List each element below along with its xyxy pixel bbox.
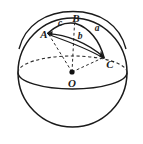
center-point-marker (69, 69, 74, 74)
label-side-b: b (78, 32, 83, 42)
label-vertex-a: A (40, 29, 47, 40)
radius-ob-dashed (72, 24, 75, 72)
label-vertex-b: B (72, 13, 79, 24)
radius-oa-dashed (49, 34, 73, 72)
spherical-triangle-figure: A B C O a b c (0, 0, 143, 144)
label-side-a: a (95, 24, 100, 34)
label-side-c: c (58, 19, 62, 29)
label-vertex-c: C (106, 59, 113, 70)
radius-oc-dashed (72, 58, 104, 73)
label-center-o: O (68, 78, 76, 89)
